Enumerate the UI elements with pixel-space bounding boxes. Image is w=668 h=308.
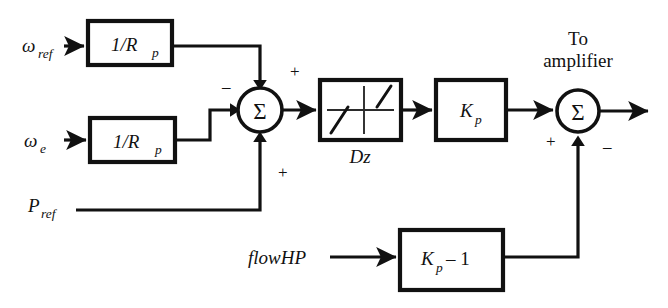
omega-e-symbol: ω [24, 130, 37, 151]
gain-droop-e-label: 1/R [113, 131, 140, 152]
second-sum-sign-left: + [546, 132, 556, 151]
omega-ref-symbol: ω [22, 35, 35, 56]
gain-kp-minus-one-subscript: p [435, 260, 443, 275]
control-block-diagram: ω ref 1/R p ω e 1/R p P ref [0, 0, 668, 308]
first-sum-sign-left: – [221, 77, 231, 96]
second-sum-symbol: Σ [571, 100, 584, 125]
p-ref-input-label: P ref [27, 195, 58, 221]
gain-kp-subscript: p [474, 112, 482, 127]
arrowhead-sum2-bottom [571, 136, 585, 147]
flow-hp-label: flowHP [248, 247, 306, 268]
omega-e-input-label: ω e [24, 130, 46, 156]
gain-kp-minus-one-label: K [420, 248, 435, 269]
to-amplifier-line1: To [568, 28, 588, 49]
block-deadzone: Dz [320, 80, 401, 167]
wire-kpminus1-to-sum2-bottom [503, 146, 578, 257]
omega-e-subscript: e [40, 141, 46, 156]
omega-ref-subscript: ref [38, 46, 55, 61]
gain-droop-e-subscript: p [154, 142, 162, 157]
to-amplifier-line2: amplifier [543, 50, 613, 71]
p-ref-subscript: ref [41, 206, 58, 221]
first-sum-sign-top: + [290, 62, 300, 81]
gain-droop-ref-label: 1/R [111, 34, 138, 55]
omega-ref-input-label: ω ref [22, 35, 55, 61]
gain-kp-minus-one-suffix: – 1 [445, 248, 470, 269]
gain-kp-label: K [459, 100, 474, 121]
first-sum-sign-bottom: + [278, 163, 288, 182]
deadzone-caption: Dz [348, 146, 371, 167]
first-sum-symbol: Σ [253, 99, 266, 124]
wire-gainref-to-sum-top [172, 46, 260, 80]
block-gain-kp: K p [436, 80, 506, 140]
p-ref-symbol: P [27, 195, 40, 216]
block-gain-droop-ref: 1/R p [88, 21, 172, 65]
wire-gaine-to-sum-left [175, 110, 230, 140]
block-diagram-canvas: ω ref 1/R p ω e 1/R p P ref [0, 0, 668, 308]
gain-droop-ref-subscript: p [151, 45, 159, 60]
flow-hp-input-label: flowHP [248, 247, 306, 268]
block-gain-droop-e: 1/R p [90, 118, 175, 162]
block-gain-kp-minus-one: K p – 1 [400, 230, 503, 290]
second-sum-sign-bottom: – [602, 137, 612, 156]
to-amplifier-label: To amplifier [543, 28, 613, 71]
